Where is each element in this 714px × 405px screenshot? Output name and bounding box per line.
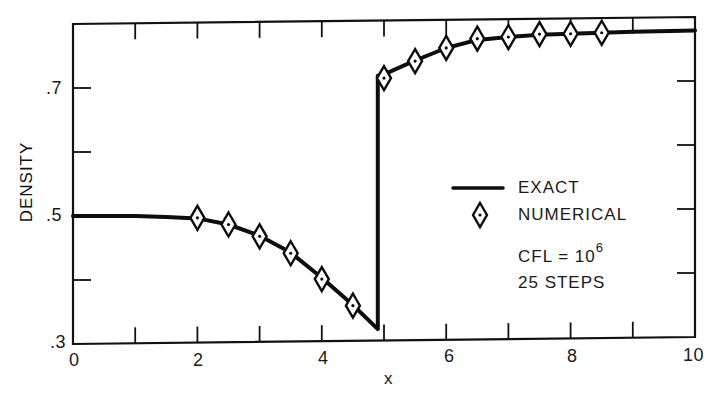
marker-center-dot [227,223,230,226]
marker-center-dot [196,216,199,219]
legend-numerical-label: NUMERICAL [518,205,627,225]
legend-diamond-dot-icon [478,213,481,216]
x-tick-label-4: 4 [318,348,329,369]
marker-center-dot [600,31,603,34]
marker-center-dot [538,33,541,36]
y-tick-label-0.7: .7 [46,78,62,99]
x-tick-label-10: 10 [683,345,704,366]
x-tick-label-0: 0 [69,350,80,371]
marker-center-dot [289,252,292,255]
marker-center-dot [320,278,323,281]
y-tick-label-0.3: .3 [50,332,66,353]
marker-center-dot [351,304,354,307]
legend-exact-label: EXACT [518,178,580,198]
marker-center-dot [507,35,510,38]
marker-center-dot [569,32,572,35]
marker-center-dot [414,60,417,63]
legend-graphics [453,188,503,227]
x-axis-title: x [384,369,393,389]
cfl-text: CFL = 10 [518,247,596,266]
legend-steps-annotation: 25 STEPS [518,273,605,293]
x-tick-label-6: 6 [444,346,455,367]
legend-cfl-annotation: CFL = 106 [518,243,604,267]
y-axis-title: DENSITY [17,142,37,223]
cfl-exponent: 6 [596,240,604,255]
marker-center-dot [476,37,479,40]
marker-center-dot [445,46,448,49]
y-tick-label-0.5: .5 [46,205,62,226]
x-tick-label-8: 8 [567,346,578,367]
marker-center-dot [258,235,261,238]
density-plot [0,0,714,405]
marker-center-dot [382,77,385,80]
x-tick-label-2: 2 [193,350,204,371]
